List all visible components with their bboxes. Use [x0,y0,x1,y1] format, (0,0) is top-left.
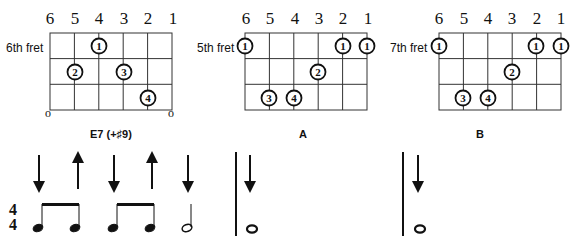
svg-text:2: 2 [315,66,321,78]
eighth-note-pair [107,203,156,233]
svg-text:3: 3 [266,92,272,104]
finger-dot: 2 [505,65,520,80]
notation-graphics: 1 2 3 4 1 1 1 2 3 4 1 1 1 2 3 4 4 4 [0,0,575,244]
whole-note [415,225,425,232]
svg-text:1: 1 [436,40,442,52]
svg-text:4: 4 [291,92,297,104]
finger-dot: 2 [68,65,83,80]
eighth-note-pair [32,203,81,233]
finger-dot: 1 [336,39,351,54]
svg-text:2: 2 [72,66,78,78]
svg-text:1: 1 [96,40,102,52]
svg-text:1: 1 [533,40,539,52]
finger-dot: 4 [481,91,496,106]
time-signature: 4 4 [9,201,17,233]
svg-text:2: 2 [509,66,515,78]
finger-dot: 1 [238,39,253,54]
svg-text:1: 1 [340,40,346,52]
finger-dot: 3 [456,91,471,106]
svg-text:4: 4 [145,92,151,104]
finger-dot: 3 [262,91,277,106]
finger-dot: 1 [529,39,544,54]
svg-text:4: 4 [9,216,17,233]
svg-text:1: 1 [364,40,370,52]
svg-text:3: 3 [460,92,466,104]
whole-note [247,225,257,232]
svg-text:4: 4 [485,92,491,104]
strum-arrows [39,155,418,189]
svg-text:3: 3 [121,66,127,78]
svg-text:1: 1 [242,40,248,52]
finger-dot: 4 [287,91,302,106]
finger-dot: 4 [141,91,156,106]
finger-dot: 3 [117,65,132,80]
finger-dot: 2 [311,65,326,80]
finger-dot: 1 [360,39,375,54]
finger-dot: 1 [554,39,569,54]
finger-dot: 1 [432,39,447,54]
half-note [181,204,193,233]
finger-dot: 1 [92,39,107,54]
svg-text:1: 1 [558,40,564,52]
